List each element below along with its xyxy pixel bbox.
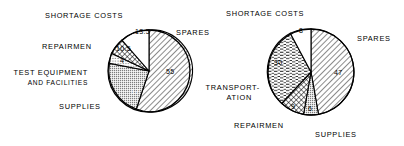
slice-spares <box>311 29 354 114</box>
left-label-supplies: SUPPLIES <box>59 102 101 111</box>
left-label-test-equipment-line1: TEST EQUIPMENT <box>4 68 88 77</box>
right-pie-chart: 47 6 9 30 8 SHORTAGE COSTS SPARES TRANSP… <box>202 0 404 146</box>
left-value-supplies: 17 <box>131 87 139 96</box>
right-value-transportation: 30 <box>274 58 282 67</box>
right-label-shortage-costs: SHORTAGE COSTS <box>226 9 304 18</box>
left-label-repairmen: REPAIRMEN <box>42 42 92 51</box>
left-value-shortage-costs: 13.5 <box>135 27 150 36</box>
right-value-repairmen: 9 <box>291 102 295 111</box>
left-pie-chart: 55 17 4 10.5 13.5 SHORTAGE COSTS REPAIRM… <box>0 0 202 146</box>
left-value-spares: 55 <box>166 67 174 76</box>
right-label-supplies: SUPPLIES <box>315 130 357 139</box>
left-value-test-equipment: 4 <box>120 56 124 65</box>
right-label-spares: SPARES <box>357 34 391 43</box>
right-label-transportation-line1: TRANSPORT- <box>202 83 260 92</box>
left-value-repairmen: 10.5 <box>116 44 131 53</box>
pie-chart-figure: 55 17 4 10.5 13.5 SHORTAGE COSTS REPAIRM… <box>0 0 404 146</box>
left-label-shortage-costs: SHORTAGE COSTS <box>45 11 123 20</box>
right-value-supplies: 6 <box>308 104 312 113</box>
right-pie-svg <box>202 0 404 146</box>
right-value-spares: 47 <box>334 68 342 77</box>
right-value-shortage-costs: 8 <box>299 26 303 35</box>
right-label-repairmen: REPAIRMEN <box>234 121 284 130</box>
left-label-test-equipment-line2: AND FACILITIES <box>4 78 88 87</box>
right-label-transportation-line2: ATION <box>202 93 252 102</box>
